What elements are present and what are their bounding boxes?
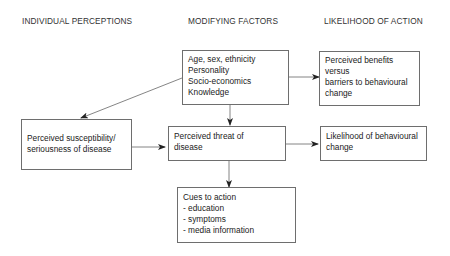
node-text-line: versus bbox=[325, 66, 414, 77]
node-text-line: Personality bbox=[188, 65, 283, 76]
node-text-line: Age, sex, ethnicity bbox=[188, 54, 283, 65]
node-text-line: Cues to action bbox=[183, 192, 290, 203]
node-text-line: Socio-economics bbox=[188, 76, 283, 87]
node-text-line: barriers to behavioural bbox=[325, 77, 414, 88]
node-text-line: - education bbox=[183, 203, 290, 214]
node-text-line: change bbox=[326, 142, 421, 153]
node-text-line: seriousness of disease bbox=[27, 144, 126, 155]
node-perceived-benefits: Perceived benefits versus barriers to be… bbox=[319, 51, 420, 106]
node-likelihood-of-change: Likelihood of behavioural change bbox=[320, 126, 427, 161]
node-perceived-susceptibility: Perceived susceptibility/ seriousness of… bbox=[21, 119, 132, 170]
node-perceived-threat: Perceived threat of disease bbox=[168, 126, 286, 161]
arrow-modifying-to-susceptibility bbox=[81, 78, 182, 118]
node-text-line: - symptoms bbox=[183, 214, 290, 225]
node-text-line: Knowledge bbox=[188, 87, 283, 98]
node-text-line: Perceived susceptibility/ bbox=[27, 133, 126, 144]
node-text-line: - media information bbox=[183, 225, 290, 236]
node-text-line: disease bbox=[174, 142, 280, 153]
node-text-line: Perceived threat of bbox=[174, 131, 280, 142]
node-text-line: Likelihood of behavioural bbox=[326, 131, 421, 142]
node-cues-to-action: Cues to action - education - symptoms - … bbox=[177, 187, 296, 243]
node-modifying-factors: Age, sex, ethnicity Personality Socio-ec… bbox=[182, 50, 289, 105]
node-text-line: change bbox=[325, 88, 414, 99]
node-text-line: Perceived benefits bbox=[325, 55, 414, 66]
